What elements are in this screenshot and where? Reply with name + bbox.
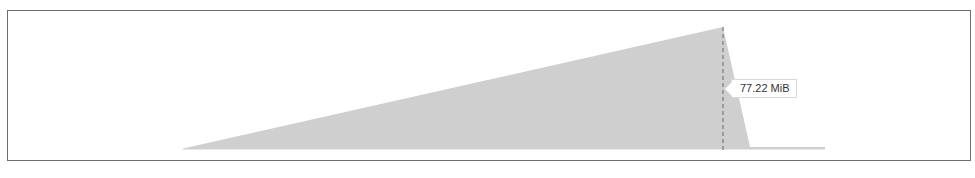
peak-value-callout: 77.22 MiB (731, 79, 797, 98)
peak-value-label: 77.22 MiB (740, 82, 790, 94)
memory-area-chart (0, 0, 975, 178)
